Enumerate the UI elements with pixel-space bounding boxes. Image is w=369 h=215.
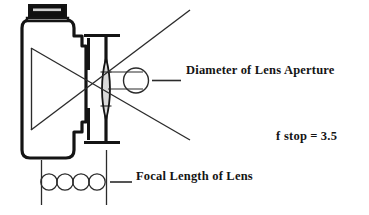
focal-circle-4 bbox=[89, 174, 105, 190]
camera-top-marking-icon bbox=[33, 9, 61, 12]
fstop-equals: = bbox=[307, 129, 320, 143]
fstop-annotation: f stop=3.5 bbox=[276, 130, 337, 143]
camera-top-plate bbox=[29, 5, 66, 18]
focal-circle-1 bbox=[41, 174, 57, 190]
fstop-value: 3.5 bbox=[321, 129, 338, 143]
camera-viewfinder-hump bbox=[27, 18, 68, 21]
aperture-label: Diameter of Lens Aperture bbox=[186, 64, 335, 77]
focal-circle-3 bbox=[73, 174, 89, 190]
fstop-symbol: f stop bbox=[276, 129, 307, 143]
focal-length-label: Focal Length of Lens bbox=[136, 170, 253, 183]
focal-circle-2 bbox=[57, 174, 73, 190]
diagram-page: Diameter of Lens Aperture Focal Length o… bbox=[0, 0, 369, 215]
